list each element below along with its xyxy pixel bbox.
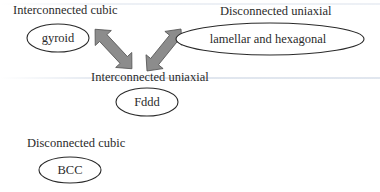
node-bcc-label: BCC	[57, 163, 82, 177]
node-gyroid: gyroid	[27, 24, 89, 52]
double-arrow-icon	[87, 22, 140, 76]
phase-diagram: Interconnected cubic Disconnected uniaxi…	[0, 0, 380, 192]
node-gyroid-label: gyroid	[42, 31, 75, 45]
node-fddd: Fddd	[116, 88, 178, 116]
node-lamellar-hexagonal: lamellar and hexagonal	[176, 23, 364, 55]
double-arrow-icon	[138, 22, 189, 78]
diagram-graphics: gyroid lamellar and hexagonal Fddd BCC	[0, 0, 380, 192]
node-bcc: BCC	[39, 157, 101, 183]
node-fddd-label: Fddd	[134, 95, 160, 109]
node-lamellar-hexagonal-label: lamellar and hexagonal	[210, 32, 327, 46]
